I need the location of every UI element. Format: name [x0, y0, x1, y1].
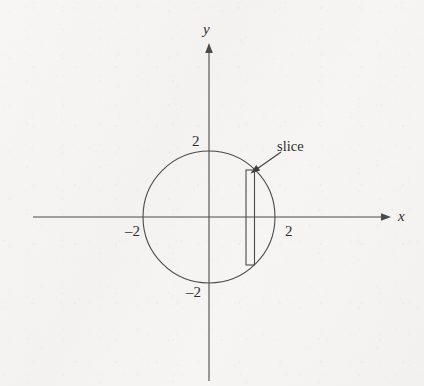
diagram-svg	[0, 0, 424, 386]
y-tick-label-positive-2: 2	[192, 134, 200, 149]
y-axis-arrowhead	[205, 43, 213, 53]
x-axis-label: x	[398, 209, 405, 224]
slice-annotation-label: slice	[277, 139, 304, 154]
figure-canvas: y x 2 –2 –2 2 slice	[0, 0, 424, 386]
y-tick-label-negative-2: –2	[186, 285, 201, 300]
y-axis-label: y	[203, 22, 210, 37]
x-tick-label-positive-2: 2	[285, 224, 293, 239]
x-tick-label-negative-2: –2	[125, 224, 140, 239]
x-axis-arrowhead	[381, 213, 391, 221]
